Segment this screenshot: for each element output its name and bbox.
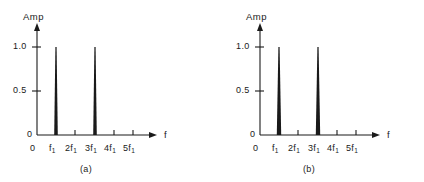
x-tick-label-2f1: 2f1 xyxy=(65,144,77,153)
figure-container: Amp 1.0 0.5 0 0 f1 2f1 3f1 4f1 5f1 f (a) xyxy=(0,0,424,182)
x-tick-4f1-subscript: 1 xyxy=(335,147,339,154)
plot-axes-a xyxy=(0,0,212,182)
x-tick-2f1-coeff: 2 xyxy=(65,143,70,153)
x-tick-label-5f1: 5f1 xyxy=(123,144,135,153)
x-tick-3f1-coeff: 3 xyxy=(308,143,313,153)
y-axis-arrowhead xyxy=(257,23,263,31)
y-tick-label-1.0: 1.0 xyxy=(236,42,250,51)
spike-f1 xyxy=(54,47,58,135)
spike-3f1 xyxy=(93,47,97,135)
x-tick-label-3f1: 3f1 xyxy=(308,144,320,153)
x-tick-label-4f1: 4f1 xyxy=(104,144,116,153)
y-axis-arrowhead xyxy=(34,23,40,31)
x-tick-2f1-subscript: 1 xyxy=(296,147,300,154)
y-tick-label-0: 0 xyxy=(250,130,255,139)
spectrum-panel-b: Amp 1.0 0.5 0 0 f1 2f1 3f1 4f1 5f1 f (b) xyxy=(212,0,424,182)
y-axis-title: Amp xyxy=(246,12,267,22)
x-tick-3f1-subscript: 1 xyxy=(93,147,97,154)
x-tick-label-5f1: 5f1 xyxy=(346,144,358,153)
x-tick-3f1-subscript: 1 xyxy=(316,147,320,154)
x-tick-label-2f1: 2f1 xyxy=(288,144,300,153)
panel-caption-b: (b) xyxy=(289,164,329,174)
origin-label: 0 xyxy=(253,144,258,153)
x-tick-label-f1: f1 xyxy=(272,144,279,153)
spectrum-panel-a: Amp 1.0 0.5 0 0 f1 2f1 3f1 4f1 5f1 f (a) xyxy=(0,0,212,182)
x-tick-label-4f1: 4f1 xyxy=(327,144,339,153)
x-tick-3f1-coeff: 3 xyxy=(85,143,90,153)
x-tick-4f1-coeff: 4 xyxy=(104,143,109,153)
y-axis-title: Amp xyxy=(23,12,44,22)
x-tick-f1-subscript: 1 xyxy=(52,147,56,154)
x-tick-5f1-subscript: 1 xyxy=(354,147,358,154)
panel-caption-a: (a) xyxy=(66,164,106,174)
x-tick-label-f1: f1 xyxy=(49,144,56,153)
origin-label: 0 xyxy=(30,144,35,153)
y-tick-label-0.5: 0.5 xyxy=(236,86,250,95)
x-tick-label-3f1: 3f1 xyxy=(85,144,97,153)
x-axis-title: f xyxy=(164,130,167,140)
y-tick-label-1.0: 1.0 xyxy=(13,42,27,51)
spike-3f1 xyxy=(316,47,320,135)
x-tick-5f1-coeff: 5 xyxy=(346,143,351,153)
spike-f1 xyxy=(277,47,281,135)
x-tick-f1-subscript: 1 xyxy=(275,147,279,154)
y-tick-label-0: 0 xyxy=(27,130,32,139)
x-tick-2f1-coeff: 2 xyxy=(288,143,293,153)
x-axis-title: f xyxy=(387,130,390,140)
x-tick-5f1-coeff: 5 xyxy=(123,143,128,153)
x-tick-5f1-subscript: 1 xyxy=(131,147,135,154)
x-tick-4f1-subscript: 1 xyxy=(112,147,116,154)
x-axis-arrowhead xyxy=(149,132,157,138)
x-tick-4f1-coeff: 4 xyxy=(327,143,332,153)
x-tick-2f1-subscript: 1 xyxy=(73,147,77,154)
x-axis-arrowhead xyxy=(372,132,380,138)
y-tick-label-0.5: 0.5 xyxy=(13,86,27,95)
